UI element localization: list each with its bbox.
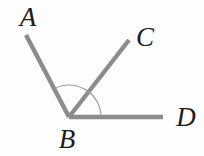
geometry-diagram: A C B D	[0, 0, 204, 156]
label-point-a: A	[18, 2, 37, 32]
label-point-b: B	[59, 124, 76, 154]
angle-diagram-canvas: A C B D	[0, 0, 204, 156]
label-point-c: C	[136, 22, 155, 52]
label-point-d: D	[175, 102, 196, 132]
ray-ba-line	[26, 35, 69, 117]
